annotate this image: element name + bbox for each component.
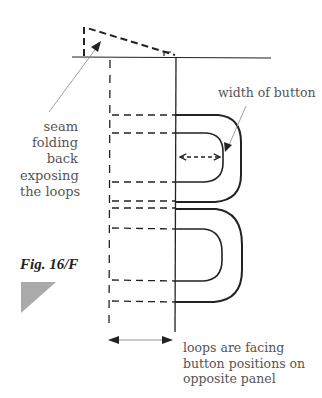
panel-offset-arrowhead-left <box>108 336 119 344</box>
figure-label: Fig. 16/F <box>20 256 78 272</box>
width-leader-arrowhead <box>224 142 232 152</box>
figure-marker-triangle <box>21 282 56 313</box>
fold-dashed-line <box>109 60 110 328</box>
folded-seam-flap <box>84 28 175 56</box>
seam-line <box>72 57 271 58</box>
seam-folding-label: seam folding back exposing the loops <box>20 119 78 200</box>
panel-offset-arrowhead-right <box>162 336 173 344</box>
width-of-button-label: width of button <box>218 85 316 101</box>
loops-facing-label: loops are facing button positions on opp… <box>183 340 305 387</box>
panel-edge-line <box>175 57 176 332</box>
seam-leader-arrowhead <box>91 41 101 52</box>
width-leader-arrow <box>229 106 246 145</box>
button-loop-2 <box>112 208 242 302</box>
button-loop-1 <box>112 115 241 202</box>
